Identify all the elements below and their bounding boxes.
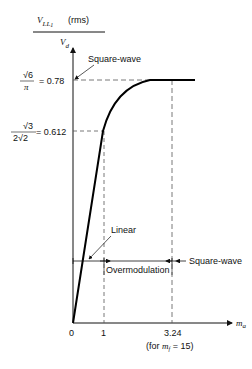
svg-text:√3: √3 (23, 121, 33, 131)
y-tick-0612: √3 2√2 = 0.612 (11, 121, 66, 143)
svg-text:2√2: 2√2 (13, 133, 28, 143)
y-axis-label: VLL1 (rms) Vd (33, 15, 105, 50)
data-curve (73, 80, 195, 323)
svg-text:VLL1: VLL1 (37, 15, 53, 28)
annotation-square-wave-region: Square-wave (189, 256, 242, 266)
chart: VLL1 (rms) Vd √6 π = 0.78 √3 2√2 = 0.612… (0, 0, 252, 369)
x-tick-324: 3.24 (164, 328, 182, 338)
x-axis-label: ma (236, 318, 247, 330)
svg-text:π: π (24, 82, 29, 92)
annotation-square-wave-top: Square-wave (88, 54, 141, 64)
annotation-linear: Linear (111, 225, 136, 235)
y-tick-078: √6 π = 0.78 (20, 70, 64, 92)
x-tick-1: 1 (101, 328, 106, 338)
svg-text:(rms): (rms) (68, 15, 89, 25)
svg-text:= 0.78: = 0.78 (39, 76, 64, 86)
x-tick-0: 0 (69, 328, 74, 338)
svg-text:Vd: Vd (60, 37, 70, 50)
svg-text:= 0.612: = 0.612 (36, 127, 66, 137)
svg-text:√6: √6 (23, 70, 33, 80)
annotation-overmodulation: Overmodulation (106, 265, 170, 275)
x-note: (for mf = 15) (146, 341, 193, 352)
